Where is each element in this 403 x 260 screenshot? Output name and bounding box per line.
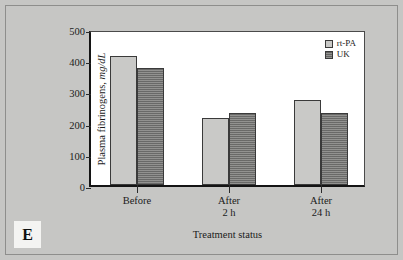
y-tick-mark	[86, 94, 91, 95]
y-tick-mark	[86, 157, 91, 158]
y-tick-mark	[86, 188, 91, 189]
y-tick-label: 0	[45, 183, 85, 194]
x-tick-mark	[321, 185, 322, 193]
y-axis-label-text: Plasma fibrinogens,	[96, 82, 107, 165]
y-tick-mark	[86, 63, 91, 64]
x-tick-label: Before	[92, 195, 182, 207]
x-tick-label-line: 2 h	[184, 207, 274, 219]
x-tick-mark	[229, 185, 230, 193]
y-tick-label: 100	[45, 152, 85, 163]
legend-swatch-icon	[325, 51, 333, 59]
x-tick-label-line: Before	[92, 195, 182, 207]
y-tick-mark	[86, 126, 91, 127]
bar-uk-before	[137, 68, 164, 185]
panel-label: E	[14, 221, 41, 248]
y-tick-mark	[86, 32, 91, 33]
x-tick-label: After24 h	[276, 195, 366, 219]
x-tick-label-line: After	[276, 195, 366, 207]
y-axis-label-units: mg/dL	[96, 52, 107, 79]
y-axis-label: Plasma fibrinogens, mg/dL	[96, 19, 107, 199]
plot-area: Plasma fibrinogens, mg/dL 01002003004005…	[89, 31, 365, 187]
bar-uk-after-2-h	[229, 113, 256, 185]
y-tick-label: 500	[45, 27, 85, 38]
chart-legend: rt-PAUK	[325, 39, 356, 59]
bar-rt-pa-after-2-h	[202, 118, 229, 185]
legend-swatch-icon	[325, 40, 333, 48]
y-tick-label: 200	[45, 120, 85, 131]
y-tick-label: 300	[45, 89, 85, 100]
x-tick-mark	[137, 185, 138, 193]
x-tick-label: After2 h	[184, 195, 274, 219]
legend-item: rt-PA	[325, 39, 356, 48]
x-axis-label: Treatment status	[91, 229, 364, 240]
plot-inner: Plasma fibrinogens, mg/dL 01002003004005…	[91, 32, 364, 185]
legend-label: UK	[337, 50, 350, 59]
y-tick-label: 400	[45, 58, 85, 69]
bar-uk-after-24-h	[321, 113, 348, 185]
bar-rt-pa-before	[110, 56, 137, 185]
x-tick-label-line: After	[184, 195, 274, 207]
legend-item: UK	[325, 50, 356, 59]
figure-panel: Plasma fibrinogens, mg/dL 01002003004005…	[0, 0, 403, 260]
x-tick-label-line: 24 h	[276, 207, 366, 219]
bar-rt-pa-after-24-h	[294, 100, 321, 185]
legend-label: rt-PA	[337, 39, 356, 48]
